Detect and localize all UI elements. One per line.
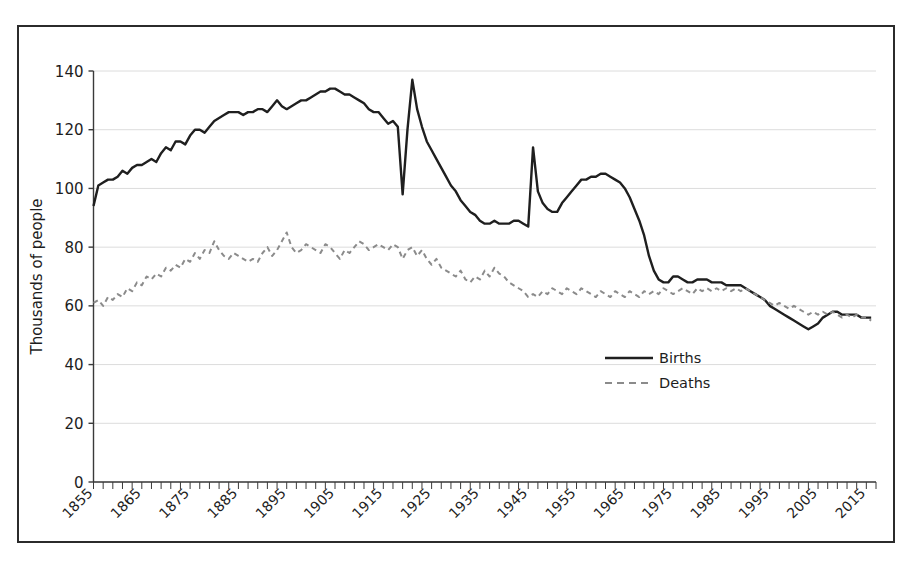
y-tick-label-60: 60 [64,297,83,315]
x-tick-label-1905: 1905 [301,485,338,522]
x-tick-label-1895: 1895 [252,485,289,522]
y-tick-label-40: 40 [64,356,83,374]
y-axis-tick-labels: 020406080100120140 [55,63,84,492]
x-axis-tick-labels: 1855186518751885189519051915192519351945… [59,485,868,522]
data-series [94,80,872,330]
x-tick-label-1985: 1985 [687,485,724,522]
figure-container: 020406080100120140 185518651875188518951… [0,0,915,568]
x-tick-label-1975: 1975 [639,485,676,522]
y-tick-label-120: 120 [55,121,84,139]
legend-label-deaths: Deaths [659,375,710,391]
series-line-deaths [94,232,872,320]
y-tick-label-20: 20 [64,415,83,433]
x-tick-label-1955: 1955 [542,485,579,522]
gridlines [94,71,877,482]
x-tick-label-1935: 1935 [446,485,483,522]
x-tick-label-1875: 1875 [156,485,193,522]
x-tick-label-2005: 2005 [784,485,821,522]
line-chart: 020406080100120140 185518651875188518951… [0,0,915,568]
y-tick-label-140: 140 [55,63,84,81]
y-axis-title: Thousands of people [28,198,46,355]
x-tick-label-2015: 2015 [832,485,869,522]
x-tick-label-1865: 1865 [107,485,144,522]
x-tick-label-1965: 1965 [590,485,627,522]
x-tick-label-1945: 1945 [494,485,531,522]
y-axis-label: Thousands of people [28,198,46,355]
y-tick-label-80: 80 [64,239,83,257]
x-tick-label-1925: 1925 [397,485,434,522]
x-tick-label-1885: 1885 [204,485,241,522]
chart-legend: BirthsDeaths [605,350,710,391]
y-tick-label-100: 100 [55,180,84,198]
x-tick-label-1995: 1995 [735,485,772,522]
series-line-births [94,80,872,330]
legend-label-births: Births [659,350,701,366]
x-tick-label-1915: 1915 [349,485,386,522]
y-axis-ticks [89,71,94,482]
